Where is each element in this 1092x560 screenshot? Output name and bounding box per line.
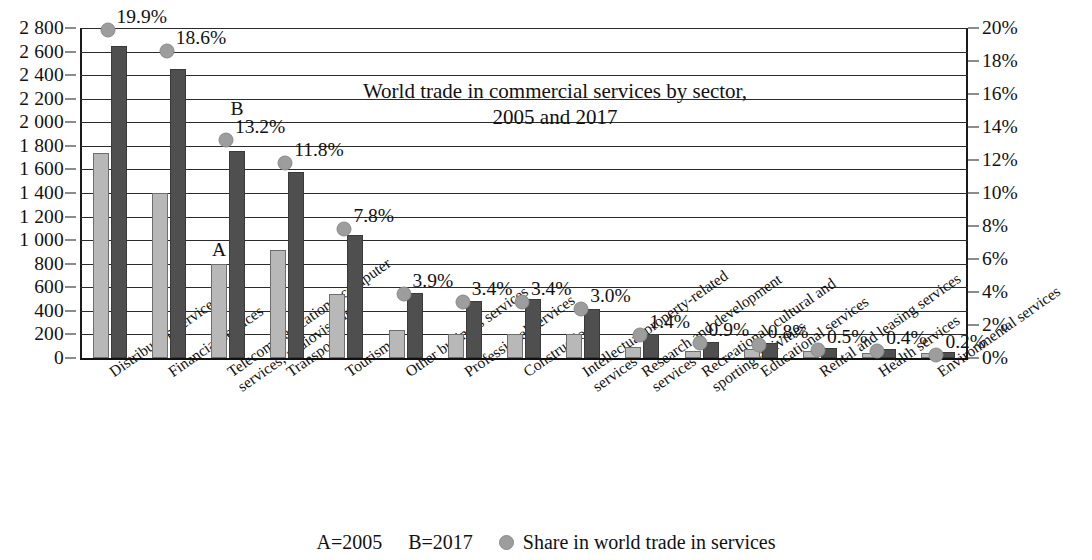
bar-2017 <box>111 46 127 358</box>
share-marker <box>929 347 944 362</box>
y-axis-right-tickmark <box>968 226 979 227</box>
y-axis-right-tickmark <box>968 193 979 194</box>
y-axis-right-tickmark <box>968 160 979 161</box>
share-value-label: 19.9% <box>117 6 167 28</box>
y-axis-left-tickmark <box>65 28 76 29</box>
y-axis-left: 02004006008001 0001 2001 4001 6001 8002 … <box>0 28 76 358</box>
y-axis-left-tick: 1 600 <box>19 158 64 180</box>
share-marker <box>870 344 885 359</box>
y-axis-left-tickmark <box>65 310 76 311</box>
y-axis-left-tickmark <box>65 51 76 52</box>
bar-2005 <box>93 153 109 358</box>
bar-2005 <box>566 334 582 358</box>
y-axis-right-tick: 20% <box>982 17 1018 39</box>
y-axis-left-tickmark <box>65 263 76 264</box>
bar-2017 <box>584 309 600 359</box>
y-axis-left-tick: 2 200 <box>19 88 64 110</box>
bar-group: 0.5% <box>790 28 849 358</box>
circle-marker-icon <box>499 535 514 550</box>
y-axis-right-tick: 18% <box>982 50 1018 72</box>
bar-2005 <box>389 330 405 358</box>
bar-2005 <box>152 193 168 358</box>
y-axis-right-tick: 14% <box>982 116 1018 138</box>
legend-label-b: B=2017 <box>408 531 473 554</box>
bar-2005 <box>270 250 286 358</box>
share-marker <box>574 301 589 316</box>
share-marker <box>396 286 411 301</box>
y-axis-left-tickmark <box>65 240 76 241</box>
chart-container: 02004006008001 0001 2001 4001 6001 8002 … <box>0 0 1092 560</box>
series-annotation-a: A <box>212 239 226 261</box>
y-axis-left-tick: 200 <box>34 323 64 345</box>
bar-group: 0.4% <box>850 28 909 358</box>
y-axis-left-tickmark <box>65 98 76 99</box>
y-axis-right-tick: 16% <box>982 83 1018 105</box>
legend-label-share: Share in world trade in services <box>523 531 776 554</box>
bar-group: 3.9% <box>376 28 435 358</box>
legend-item-share: Share in world trade in services <box>499 531 776 554</box>
y-axis-right-tick: 12% <box>982 149 1018 171</box>
bar-2017 <box>288 172 304 358</box>
y-axis-left-tickmark <box>65 287 76 288</box>
series-annotation-b: B <box>230 98 243 120</box>
share-marker <box>218 133 233 148</box>
share-marker <box>159 44 174 59</box>
y-axis-right-tick: 6% <box>982 248 1008 270</box>
legend-item-b: B=2017 <box>408 531 473 554</box>
bar-2017 <box>347 235 363 358</box>
y-axis-left-tickmark <box>65 334 76 335</box>
y-axis-left-tickmark <box>65 193 76 194</box>
y-axis-left-tickmark <box>65 145 76 146</box>
bar-group: 0.8% <box>731 28 790 358</box>
bar-group: 0.2% <box>909 28 968 358</box>
bar-2005 <box>448 334 464 358</box>
bar-group: 18.6% <box>139 28 198 358</box>
y-axis-left-tick: 2 000 <box>19 111 64 133</box>
share-marker <box>810 342 825 357</box>
bar-2005 <box>211 264 227 358</box>
share-marker <box>692 336 707 351</box>
y-axis-left-tick: 800 <box>34 253 64 275</box>
bar-2017 <box>170 69 186 358</box>
bar-group: 7.8% <box>317 28 376 358</box>
y-axis-right-tickmark <box>968 259 979 260</box>
share-marker <box>514 294 529 309</box>
bar-group: 11.8% <box>258 28 317 358</box>
bar-groups: 19.9%18.6%13.2%AB11.8%7.8%3.9%3.4%3.4%3.… <box>80 28 968 358</box>
bar-group: 3.0% <box>554 28 613 358</box>
y-axis-right-tickmark <box>968 94 979 95</box>
bar-group: 0.9% <box>672 28 731 358</box>
share-marker <box>337 222 352 237</box>
share-marker <box>633 327 648 342</box>
bar-2017 <box>525 299 541 358</box>
y-axis-left-tickmark <box>65 122 76 123</box>
y-axis-right-tickmark <box>968 28 979 29</box>
bar-2005 <box>685 351 701 358</box>
share-marker <box>455 294 470 309</box>
plot-area: 19.9%18.6%13.2%AB11.8%7.8%3.9%3.4%3.4%3.… <box>80 28 968 358</box>
share-value-label: 0.2% <box>945 331 986 353</box>
y-axis-left-tick: 2 600 <box>19 41 64 63</box>
y-axis-left-tick: 2 400 <box>19 64 64 86</box>
share-marker <box>100 22 115 37</box>
y-axis-left-tickmark <box>65 169 76 170</box>
bar-group: 3.4% <box>435 28 494 358</box>
bar-2005 <box>329 294 345 358</box>
bar-2017 <box>466 301 482 358</box>
y-axis-left-tick: 1 200 <box>19 206 64 228</box>
y-axis-right-tickmark <box>968 292 979 293</box>
share-marker <box>751 337 766 352</box>
bar-group: 19.9% <box>80 28 139 358</box>
y-axis-right-tick: 4% <box>982 281 1008 303</box>
y-axis-left-tick: 400 <box>34 300 64 322</box>
y-axis-right-tickmark <box>968 127 979 128</box>
y-axis-right-tick: 8% <box>982 215 1008 237</box>
bar-group: 3.4% <box>494 28 553 358</box>
x-axis-category-labels: Distribution servicesFinancial servicesT… <box>0 362 1092 512</box>
bar-2005 <box>507 334 523 358</box>
bar-group: 13.2%AB <box>198 28 257 358</box>
legend-item-a: A=2005 <box>316 531 382 554</box>
bar-2005 <box>625 347 641 358</box>
chart-legend: A=2005 B=2017 Share in world trade in se… <box>0 531 1092 554</box>
y-axis-left-tickmark <box>65 75 76 76</box>
